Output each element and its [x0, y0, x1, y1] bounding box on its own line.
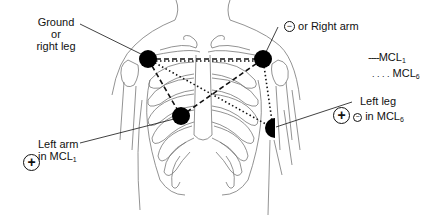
dotted-line-icon: . . . . [372, 69, 390, 79]
left-arm-electrode [172, 107, 190, 125]
minus-circle-icon: − [284, 21, 295, 32]
left-leg-label-line1: Left leg [360, 95, 396, 107]
right-arm-electrode [254, 50, 272, 68]
legend: ----MCL1 . . . . MCL6 [368, 51, 420, 83]
left-arm-mcl-text: in MCL [38, 150, 73, 162]
left-arm-label: Left arm in MCL1 [38, 138, 78, 166]
negative-right-arm-label: − or Right arm [284, 20, 359, 32]
left-leg-mcl-text: in MCL [365, 110, 400, 122]
skeleton-outline [112, 0, 300, 215]
ground-electrode [139, 50, 157, 68]
negative-label-text: or Right arm [298, 20, 359, 32]
dashed-line-icon: ---- [368, 51, 379, 63]
legend-mcl1: ----MCL1 [368, 51, 420, 67]
left-leg-label: Left leg [358, 95, 396, 107]
legend-mcl6-sub: 6 [416, 73, 420, 80]
ground-label-line2: or [30, 28, 82, 40]
left-leg-mcl-sub: 6 [400, 116, 404, 123]
ground-label-line3: right leg [30, 40, 82, 52]
ground-label: Ground or right leg [30, 16, 82, 52]
minus-small-circle-icon: − [353, 113, 362, 122]
legend-mcl6: . . . . MCL6 [372, 67, 420, 83]
left-arm-label-line1: Left arm [38, 138, 78, 150]
plus-circle-icon: + [333, 107, 350, 124]
left-arm-mcl-sub: 1 [73, 156, 77, 163]
legend-mcl1-text: MCL [379, 51, 402, 63]
plus-circle-icon: + [23, 154, 40, 171]
legend-mcl6-text: MCL [393, 67, 416, 79]
left-arm-label-line2: in MCL1 [38, 150, 78, 166]
left-leg-electrode [265, 118, 275, 138]
ground-label-line1: Ground [30, 16, 82, 28]
legend-mcl1-sub: 1 [402, 57, 406, 64]
left-leg-sign-row: + − in MCL6 [333, 107, 404, 126]
